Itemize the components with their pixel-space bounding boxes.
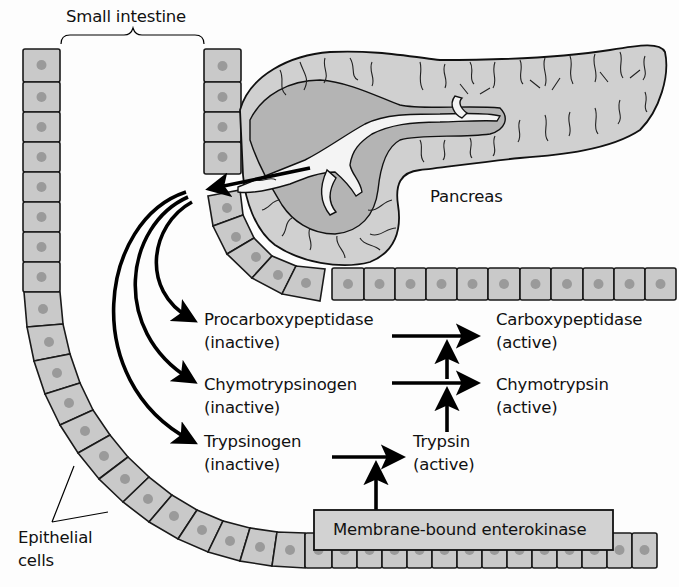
enterokinase-label: Membrane-bound enterokinase <box>333 520 586 540</box>
epithelial-cell <box>364 268 395 300</box>
epithelial-cell <box>23 112 60 142</box>
epithelial-cell <box>488 268 520 300</box>
epithelial-cell <box>204 82 241 112</box>
epithelial-cell <box>457 268 488 300</box>
zymogen-trypsinogen-state: (inactive) <box>204 455 280 475</box>
epithelial-cell <box>645 268 676 300</box>
enzyme-trypsin-state: (active) <box>413 455 474 475</box>
epithelial-cell <box>583 268 614 300</box>
epithelial-cell <box>204 112 241 142</box>
small-intestine-bracket <box>61 28 204 44</box>
pancreas-label: Pancreas <box>430 187 503 207</box>
epithelial-cell <box>23 202 60 232</box>
enzyme-chymotrypsin-state: (active) <box>496 398 557 418</box>
arrow-to-procarboxypeptidase <box>156 202 192 318</box>
epithelial-cell <box>272 532 305 568</box>
epithelial-cell <box>204 142 241 174</box>
epithelial-cell <box>24 292 63 327</box>
epithelial-cells-label-line2: cells <box>18 551 54 571</box>
zymogen-procarboxypeptidase-state: (inactive) <box>204 333 280 353</box>
epithelial-cell <box>23 142 60 172</box>
pancreas-organ <box>238 45 666 265</box>
enzyme-trypsin-name: Trypsin <box>413 432 470 452</box>
epithelial-cell <box>23 82 60 112</box>
epithelial-cell <box>520 268 551 300</box>
epithelial-cell <box>204 49 241 82</box>
epithelial-cell <box>395 268 426 300</box>
enzyme-chymotrypsin-name: Chymotrypsin <box>496 375 609 395</box>
enzyme-carboxypeptidase-state: (active) <box>496 333 557 353</box>
epithelial-cells-label-line1: Epithelial <box>18 528 92 548</box>
zymogen-procarboxypeptidase-name: Procarboxypeptidase <box>204 310 373 330</box>
enzyme-carboxypeptidase-name: Carboxypeptidase <box>496 310 642 330</box>
epithelial-cell <box>614 268 645 300</box>
epithelial-cell <box>551 268 583 300</box>
zymogen-chymotrypsinogen-name: Chymotrypsinogen <box>204 375 357 395</box>
diagram-canvas <box>0 0 679 587</box>
epithelial-cell <box>23 262 60 292</box>
zymogen-trypsinogen-name: Trypsinogen <box>204 432 301 452</box>
zymogen-chymotrypsinogen-state: (inactive) <box>204 398 280 418</box>
epithelial-cell <box>332 268 364 300</box>
epithelial-cell <box>426 268 457 300</box>
epithelial-cell <box>632 533 657 568</box>
epithelial-cell <box>23 172 60 202</box>
epithelial-cell <box>23 49 60 82</box>
epithelial-cell <box>23 232 60 262</box>
small-intestine-label: Small intestine <box>66 7 186 27</box>
